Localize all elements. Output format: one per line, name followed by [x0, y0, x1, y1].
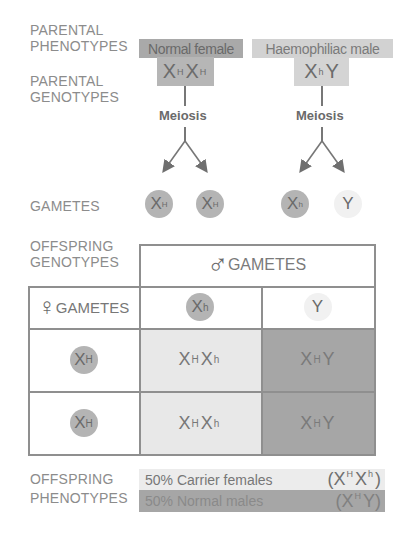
allele-sup: h [214, 418, 220, 429]
allele-sup: h [368, 469, 373, 479]
offspring-cell-carrier-female: XH Xh [139, 391, 261, 455]
allele-base: X [150, 194, 161, 214]
allele-base: X [186, 60, 199, 83]
allele-sup: h [298, 200, 302, 209]
allele-sup: h [214, 354, 220, 365]
label-line: OFFSPRING [30, 238, 119, 254]
phenotype-text: 50% Carrier females [145, 472, 273, 488]
grid-line [28, 328, 375, 330]
label-line: PHENOTYPES [30, 38, 128, 54]
male-gametes-header: ♂ GAMETES [139, 244, 374, 286]
male-gamete-2: Y [334, 190, 362, 218]
offspring-phenotypes-label: OFFSPRING PHENOTYPES [30, 471, 128, 506]
label-line: PHENOTYPES [30, 490, 128, 506]
allele-base: X [74, 350, 85, 370]
grid-line [28, 286, 375, 288]
allele-base: X [179, 349, 191, 370]
allele-sup: h [203, 302, 209, 313]
male-gamete-1: Xh [281, 190, 309, 218]
gametes-label: GAMETES [30, 198, 100, 214]
grid-line [28, 454, 375, 456]
allele-base: X [201, 349, 213, 370]
column-header-y: Y [261, 286, 374, 328]
grid-line [139, 244, 141, 456]
phenotype-genotype: (XHY) [335, 491, 381, 512]
label-line: PARENTAL [30, 73, 119, 89]
allele-base: X [163, 60, 176, 83]
grid-line [261, 286, 263, 456]
female-gametes-header: ♀ GAMETES [28, 286, 139, 328]
allele-sup: H [354, 491, 361, 501]
header-label: GAMETES [56, 299, 129, 316]
female-gamete-1: XH [145, 190, 173, 218]
female-symbol-icon: ♀ [38, 293, 56, 321]
phenotype-text: 50% Normal males [145, 493, 263, 509]
geno-part: (X [327, 469, 345, 489]
male-symbol-icon: ♂ [207, 249, 228, 281]
allele-base: Y [312, 297, 323, 317]
allele-base: X [201, 413, 213, 434]
female-meiosis-label: Meiosis [159, 108, 207, 123]
female-phenotype-box: Normal female [139, 39, 243, 58]
grid-line [139, 244, 375, 246]
row-header-2: XH [28, 391, 139, 455]
allele-base: X [304, 60, 317, 83]
allele-base: X [287, 194, 298, 214]
allele-base: X [192, 297, 203, 317]
male-phenotype-box: Haemophiliac male [252, 39, 393, 58]
allele-sup: H [213, 200, 219, 209]
allele-sup: H [177, 67, 184, 77]
allele-sup: H [86, 354, 93, 365]
gamete-circle: XH [70, 409, 98, 437]
offspring-cell-carrier-female: XH Xh [139, 328, 261, 391]
grid-line [28, 286, 30, 456]
phenotype-genotype: (XHXh) [327, 469, 381, 490]
geno-part: ) [375, 469, 381, 489]
grid-line [28, 391, 375, 393]
allele-sup: H [313, 354, 320, 365]
offspring-cell-normal-male: XH Y [261, 391, 374, 455]
geno-part: ) [375, 491, 381, 511]
gamete-circle: Y [304, 293, 332, 321]
allele-base: Y [326, 60, 339, 83]
connector-line [184, 86, 186, 106]
gamete-circle: XH [70, 346, 98, 374]
offspring-genotypes-label: OFFSPRING GENOTYPES [30, 238, 119, 270]
geno-part: X [355, 469, 367, 489]
offspring-cell-normal-male: XH Y [261, 328, 374, 391]
connector-line [321, 86, 323, 106]
parental-genotypes-label: PARENTAL GENOTYPES [30, 73, 119, 105]
allele-base: X [300, 349, 312, 370]
offspring-phenotype-carrier-females: 50% Carrier females (XHXh) [139, 469, 385, 490]
male-split-arrows-icon [287, 138, 357, 178]
allele-base: X [179, 413, 191, 434]
geno-part: Y [363, 491, 375, 511]
allele-sup: h [318, 67, 323, 77]
allele-sup: H [192, 418, 199, 429]
geno-part: (X [335, 491, 353, 511]
allele-base: X [300, 413, 312, 434]
allele-sup: H [346, 469, 353, 479]
female-gamete-2: XH [196, 190, 224, 218]
label-line: PARENTAL [30, 22, 128, 38]
allele-base: Y [342, 194, 353, 214]
allele-sup: H [200, 67, 207, 77]
female-genotype-box: XH XH [157, 57, 214, 86]
allele-base: X [74, 413, 85, 433]
offspring-phenotype-normal-males: 50% Normal males (XHY) [139, 490, 385, 512]
allele-base: Y [323, 413, 335, 434]
label-line: GENOTYPES [30, 254, 119, 270]
allele-base: Y [323, 349, 335, 370]
allele-base: X [201, 194, 212, 214]
label-line: OFFSPRING [30, 471, 128, 487]
gamete-circle: Xh [186, 293, 214, 321]
allele-sup: H [86, 418, 93, 429]
column-header-xh: Xh [139, 286, 261, 328]
label-line: GENOTYPES [30, 89, 119, 105]
allele-sup: H [192, 354, 199, 365]
grid-line [374, 244, 376, 456]
female-split-arrows-icon [150, 138, 220, 178]
male-meiosis-label: Meiosis [296, 108, 344, 123]
row-header-1: XH [28, 328, 139, 391]
header-label: GAMETES [228, 256, 306, 274]
